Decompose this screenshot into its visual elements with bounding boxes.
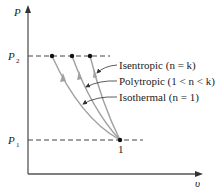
pv-diagram: P υ P 2 P 1 1 Isentropic (n = k) Polytro… (0, 0, 221, 191)
svg-text:1: 1 (16, 141, 20, 149)
polytropic-end-point (70, 54, 74, 58)
isothermal-label: Isothermal (n = 1) (119, 91, 199, 104)
isentropic-label: Isentropic (n = k) (119, 59, 196, 72)
isothermal-end-point (50, 54, 54, 58)
p1-label: P 1 (7, 134, 20, 149)
p2-label: P 2 (7, 50, 20, 65)
isentropic-curve (90, 56, 120, 140)
x-axis-label: υ (195, 177, 200, 189)
polytropic-curve (72, 56, 120, 140)
isentropic-leader (97, 65, 117, 73)
polytropic-leader (86, 81, 117, 87)
svg-text:P: P (7, 134, 15, 146)
isothermal-leader (83, 97, 117, 104)
isentropic-end-point (88, 54, 92, 58)
state-point-1 (118, 138, 122, 142)
polytropic-label: Polytropic (1 < n < k) (119, 75, 215, 88)
y-axis-arrow-icon (25, 5, 31, 13)
svg-text:2: 2 (16, 57, 20, 65)
y-axis-label: P (13, 6, 21, 18)
svg-text:P: P (7, 50, 15, 62)
state-point-1-label: 1 (118, 143, 124, 155)
